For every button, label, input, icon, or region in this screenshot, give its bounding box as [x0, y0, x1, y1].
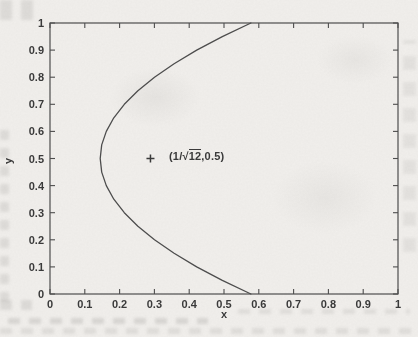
- svg-text:0.1: 0.1: [77, 298, 92, 310]
- plot-generated: 00.10.20.30.40.50.60.70.80.9100.10.20.30…: [29, 17, 401, 310]
- svg-text:1: 1: [395, 298, 401, 310]
- svg-text:0.7: 0.7: [286, 298, 301, 310]
- plus-marker: [146, 155, 154, 163]
- y-axis-label: y: [2, 157, 14, 164]
- label-radicand: 12: [189, 149, 202, 162]
- label-pre: (1/: [169, 150, 182, 162]
- svg-text:0.6: 0.6: [29, 125, 44, 137]
- svg-text:0.8: 0.8: [321, 298, 336, 310]
- svg-text:0.8: 0.8: [29, 71, 44, 83]
- svg-text:0: 0: [47, 298, 53, 310]
- scanned-figure: 00.10.20.30.40.50.60.70.80.9100.10.20.30…: [0, 0, 418, 337]
- svg-text:0.3: 0.3: [29, 207, 44, 219]
- svg-text:0.1: 0.1: [29, 261, 44, 273]
- svg-text:0.3: 0.3: [147, 298, 162, 310]
- plot-svg: 00.10.20.30.40.50.60.70.80.9100.10.20.30…: [0, 0, 418, 337]
- svg-text:0.2: 0.2: [112, 298, 127, 310]
- svg-text:0.7: 0.7: [29, 98, 44, 110]
- svg-text:0.6: 0.6: [251, 298, 266, 310]
- svg-text:0.9: 0.9: [356, 298, 371, 310]
- sqrt-icon: √: [182, 150, 188, 162]
- point-annotation-label: (1/√12,0.5): [169, 150, 224, 163]
- svg-text:0.4: 0.4: [182, 298, 198, 310]
- svg-text:0.5: 0.5: [29, 153, 44, 165]
- svg-text:0.2: 0.2: [29, 234, 44, 246]
- svg-text:0: 0: [38, 288, 44, 300]
- svg-text:0.4: 0.4: [29, 180, 45, 192]
- label-post: ,0.5): [201, 150, 224, 162]
- x-axis-label: x: [221, 308, 228, 320]
- svg-text:1: 1: [38, 17, 44, 29]
- svg-text:0.9: 0.9: [29, 44, 44, 56]
